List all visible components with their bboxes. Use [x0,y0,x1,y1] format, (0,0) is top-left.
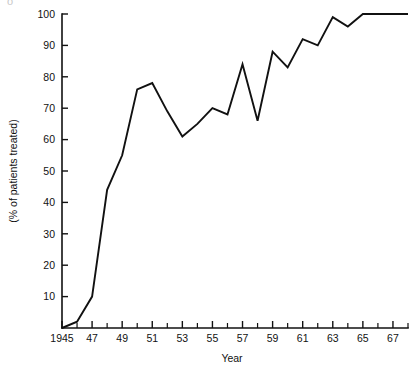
chart-figure: o 102030405060708090100 1945474951535557… [0,0,420,372]
x-tick-label: 55 [207,332,219,344]
x-tick-label: 49 [116,332,128,344]
x-axis-tick-labels: 19454749515355575961636567 [50,332,399,344]
x-tick-label: 53 [177,332,189,344]
y-tick-label: 60 [43,133,55,145]
y-tick-label: 40 [43,196,55,208]
x-axis-ticks [62,321,408,328]
y-tick-label: 30 [43,228,55,240]
y-axis-tick-labels: 102030405060708090100 [37,8,55,303]
y-axis-title: (% of patients treated) [7,119,19,222]
data-series-line [62,14,408,328]
y-tick-label: 70 [43,102,55,114]
y-tick-label: 50 [43,165,55,177]
y-tick-label: 90 [43,39,55,51]
x-tick-label: 67 [387,332,399,344]
y-tick-label: 10 [43,290,55,302]
x-tick-label: 1945 [50,332,74,344]
x-tick-label: 63 [327,332,339,344]
x-tick-label: 59 [267,332,279,344]
x-axis-title: Year [221,352,243,364]
x-tick-label: 47 [86,332,98,344]
x-tick-label: 57 [237,332,249,344]
line-chart-plot: 102030405060708090100 194547495153555759… [0,0,420,372]
x-tick-label: 51 [146,332,158,344]
y-tick-label: 80 [43,71,55,83]
x-tick-label: 65 [357,332,369,344]
y-axis-ticks [62,14,68,297]
x-tick-label: 61 [297,332,309,344]
y-tick-label: 20 [43,259,55,271]
y-tick-label: 100 [37,8,55,20]
